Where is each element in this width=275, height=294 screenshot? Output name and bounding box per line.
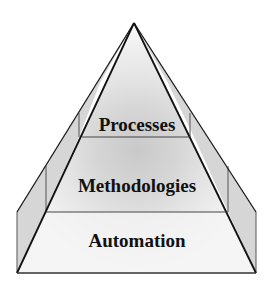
pyramid-diagram: Processes Methodologies Automation xyxy=(0,0,275,294)
pyramid-svg: Processes Methodologies Automation xyxy=(0,0,275,294)
layer-label-methodologies: Methodologies xyxy=(78,175,196,196)
layer-label-processes: Processes xyxy=(99,114,176,135)
layer-label-automation: Automation xyxy=(88,230,186,251)
